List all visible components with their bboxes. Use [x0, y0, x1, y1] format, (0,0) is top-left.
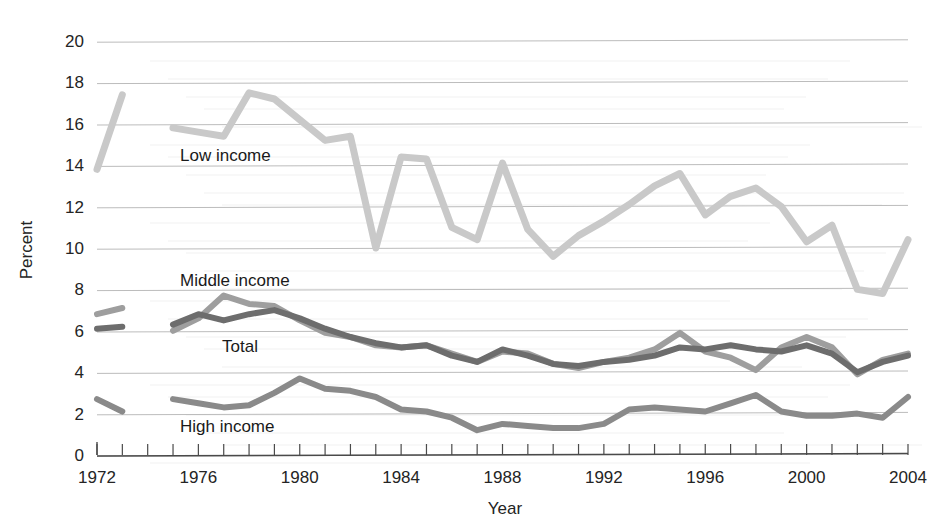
- series-label-high-income: High income: [180, 417, 275, 436]
- y-tick-label: 6: [75, 322, 84, 341]
- y-tick-label: 12: [65, 198, 84, 217]
- y-tick-label: 16: [65, 115, 84, 134]
- y-tick-label: 14: [65, 156, 84, 175]
- y-axis-title: Percent: [17, 220, 36, 279]
- x-tick-label: 1988: [484, 468, 522, 487]
- x-axis-title: Year: [488, 499, 523, 518]
- x-axis-tick-labels: 197219761980198419881992199620002004: [78, 468, 927, 487]
- y-tick-label: 2: [75, 405, 84, 424]
- y-tick-label: 18: [65, 73, 84, 92]
- series-label-low-income: Low income: [180, 146, 271, 165]
- y-tick-label: 4: [75, 363, 84, 382]
- x-tick-label: 2000: [788, 468, 826, 487]
- x-tick-label: 1972: [78, 468, 116, 487]
- y-tick-label: 8: [75, 280, 84, 299]
- data-line-total: [97, 327, 122, 329]
- y-tick-label: 10: [65, 239, 84, 258]
- chart-container: 02468101214161820 1972197619801984198819…: [0, 0, 929, 532]
- series-label-middle-income: Middle income: [180, 271, 290, 290]
- x-tick-label: 1996: [686, 468, 724, 487]
- x-tick-label: 1984: [382, 468, 420, 487]
- series-label-total: Total: [222, 337, 258, 356]
- y-tick-label: 0: [75, 446, 84, 465]
- x-tick-label: 1980: [281, 468, 319, 487]
- line-chart: 02468101214161820 1972197619801984198819…: [0, 0, 929, 532]
- x-tick-label: 2004: [889, 468, 927, 487]
- y-tick-label: 20: [65, 32, 84, 51]
- x-tick-label: 1976: [179, 468, 217, 487]
- x-tick-label: 1992: [585, 468, 623, 487]
